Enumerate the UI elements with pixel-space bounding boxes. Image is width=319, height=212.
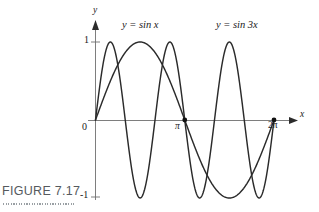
curve-label-sin-3x: y = sin 3x	[216, 20, 258, 31]
x-tick-label-2pi: 2π	[268, 121, 278, 131]
figure-container: y = sin x y = sin 3x y x 1 -1 0 π 2π FIG…	[0, 0, 319, 212]
caption-underline-rule	[3, 203, 75, 205]
plot-canvas	[0, 0, 319, 212]
y-tick-label-1: 1	[84, 35, 89, 45]
x-tick-label-pi: π	[175, 122, 180, 132]
x-axis	[88, 117, 298, 124]
y-axis-label: y	[93, 6, 97, 16]
marker-pi	[182, 118, 187, 123]
y-axis	[92, 20, 99, 200]
origin-label: 0	[82, 122, 87, 132]
x-axis-label: x	[300, 110, 304, 120]
curve-label-sin-x: y = sin x	[122, 20, 159, 31]
y-tick-label-minus-1: -1	[80, 190, 88, 200]
figure-caption: FIGURE 7.17	[2, 184, 80, 198]
